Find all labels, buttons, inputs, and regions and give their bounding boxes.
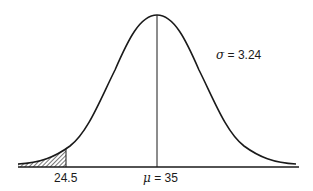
sigma-symbol: σ <box>216 48 224 62</box>
normal-curve-diagram <box>0 0 313 191</box>
cutoff-label: 24.5 <box>54 171 77 185</box>
mean-label: μ = 35 <box>143 171 178 185</box>
shaded-tail-region <box>18 149 66 167</box>
mean-value: = 35 <box>151 171 178 185</box>
sigma-annotation: σ = 3.24 <box>216 48 261 62</box>
sigma-value: = 3.24 <box>224 48 261 62</box>
mu-symbol: μ <box>143 171 151 185</box>
